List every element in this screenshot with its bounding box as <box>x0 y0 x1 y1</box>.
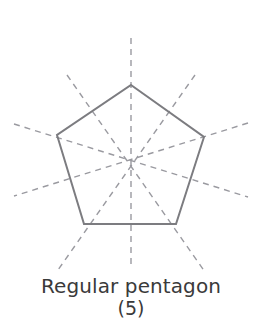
regular-pentagon-diagram <box>0 0 262 318</box>
caption-title: Regular pentagon <box>0 276 262 298</box>
figure-container: Regular pentagon (5) <box>0 0 262 318</box>
figure-caption: Regular pentagon (5) <box>0 276 262 318</box>
symmetry-axes-group <box>14 38 248 272</box>
caption-subtitle: (5) <box>0 298 262 318</box>
axis-upper-right-line <box>58 75 195 270</box>
